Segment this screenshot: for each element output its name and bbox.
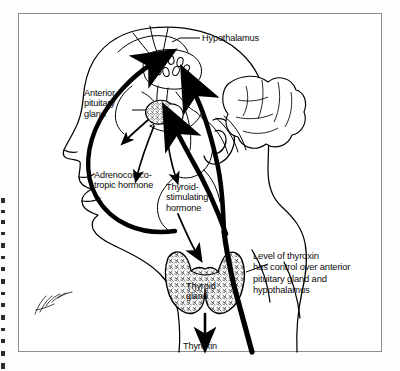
label-thyroid-stimulating-hormone: Thyroid- stimulating hormone: [166, 182, 208, 213]
label-anterior-pituitary-gland: Anterior pituitary gland: [84, 88, 115, 119]
leader-hypothalamus: [172, 38, 200, 42]
label-thyroxin: Thyroxin: [183, 341, 217, 351]
label-adrenocorticotropic-hormone: Adrenocortico- tropic hormone: [94, 170, 153, 191]
arrow-tsh-to-thyroid: [178, 214, 196, 252]
arrow-pituitary-to-acth: [137, 126, 154, 176]
label-feedback-note: Level of thyroxin has control over anter…: [253, 250, 350, 296]
figure-canvas: Hypothalamus Anterior pituitary gland Ad…: [0, 0, 400, 371]
arrow-pituitary-to-tsh: [166, 128, 176, 178]
artist-signature-mark: [35, 292, 72, 314]
pituitary-gland-body: [146, 100, 184, 124]
hypothalamus-nuclei: [154, 55, 191, 77]
leader-lines: [132, 38, 268, 272]
arrow-pituitary-to-acth-short: [126, 120, 148, 140]
label-hypothalamus: Hypothalamus: [202, 33, 259, 43]
label-thyroid-gland: Thyroid gland: [186, 281, 216, 302]
cerebellum-outline: [223, 76, 306, 148]
